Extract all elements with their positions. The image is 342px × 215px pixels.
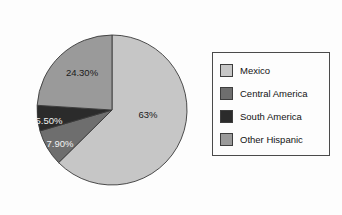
legend-item-label: South America	[240, 112, 302, 122]
legend-item[interactable]: Mexico	[220, 59, 324, 82]
pie-svg: 63%7.90%5.50%24.30%	[0, 0, 215, 215]
pie-slice-group	[37, 35, 187, 185]
legend-color-swatch	[220, 110, 233, 123]
chart-legend: MexicoCentral AmericaSouth AmericaOther …	[212, 52, 330, 156]
pie-plot-area: 63%7.90%5.50%24.30%	[0, 0, 215, 215]
pie-slice-value-label: 24.30%	[66, 67, 99, 78]
pie-slice-value-label: 5.50%	[36, 115, 63, 126]
legend-color-swatch	[220, 87, 233, 100]
legend-item-label: Other Hispanic	[240, 135, 303, 145]
pie-chart-figure: 63%7.90%5.50%24.30% MexicoCentral Americ…	[0, 0, 342, 215]
pie-slice-value-label: 7.90%	[47, 138, 74, 149]
legend-item[interactable]: South America	[220, 105, 324, 128]
legend-item-label: Mexico	[240, 66, 270, 76]
pie-slice-value-label: 63%	[138, 109, 158, 120]
legend-item[interactable]: Other Hispanic	[220, 128, 324, 151]
legend-color-swatch	[220, 64, 233, 77]
legend-item-label: Central America	[240, 89, 308, 99]
legend-color-swatch	[220, 133, 233, 146]
legend-item[interactable]: Central America	[220, 82, 324, 105]
